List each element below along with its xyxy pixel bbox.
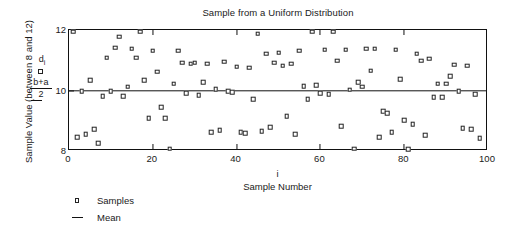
data-point bbox=[280, 63, 285, 68]
legend-label-samples: Samples bbox=[97, 195, 134, 206]
data-point bbox=[247, 66, 252, 71]
x-axis-variable: i bbox=[68, 168, 487, 179]
annotation-mean-formula: b+a 2 bbox=[28, 78, 54, 99]
plot-area bbox=[68, 29, 487, 150]
data-point bbox=[373, 46, 378, 51]
data-point bbox=[289, 62, 294, 67]
data-point bbox=[452, 62, 457, 67]
data-point bbox=[444, 82, 449, 87]
data-point bbox=[389, 130, 394, 135]
data-point bbox=[151, 48, 156, 53]
annotation-di: di bbox=[31, 54, 53, 66]
data-point bbox=[398, 77, 403, 82]
x-tick-top bbox=[152, 30, 153, 35]
data-point bbox=[410, 122, 415, 127]
data-point bbox=[368, 69, 373, 74]
data-point bbox=[176, 48, 181, 53]
data-point bbox=[117, 34, 122, 39]
data-point bbox=[100, 94, 105, 99]
data-point bbox=[285, 114, 290, 119]
x-tick-label: 60 bbox=[314, 153, 325, 164]
annotation-mean-denominator: 2 bbox=[28, 90, 54, 100]
data-point bbox=[301, 84, 306, 89]
legend-item-samples: Samples bbox=[66, 192, 134, 209]
data-point bbox=[121, 94, 126, 99]
data-point bbox=[326, 92, 331, 97]
data-point bbox=[431, 95, 436, 100]
data-point bbox=[134, 56, 139, 61]
data-point bbox=[92, 127, 97, 132]
data-point bbox=[125, 85, 130, 90]
data-point bbox=[201, 80, 206, 85]
data-point bbox=[197, 93, 202, 98]
data-point bbox=[243, 131, 248, 136]
data-point bbox=[293, 132, 298, 137]
legend-label-mean: Mean bbox=[97, 212, 121, 223]
x-tick bbox=[236, 144, 237, 149]
data-point bbox=[360, 85, 365, 90]
data-point bbox=[184, 91, 189, 96]
data-point bbox=[473, 92, 478, 97]
annotation-mean-numerator: b+a bbox=[28, 78, 54, 88]
data-point bbox=[419, 59, 424, 64]
data-point bbox=[435, 82, 440, 87]
data-point bbox=[155, 69, 160, 74]
data-point bbox=[213, 87, 218, 92]
data-point bbox=[138, 29, 143, 34]
data-point bbox=[322, 47, 327, 52]
y-tick bbox=[69, 90, 74, 91]
square-marker-icon bbox=[66, 198, 88, 203]
data-point bbox=[377, 135, 382, 140]
x-tick-top bbox=[320, 30, 321, 35]
data-point bbox=[192, 60, 197, 65]
data-point bbox=[130, 46, 135, 51]
data-point bbox=[427, 56, 432, 61]
data-point bbox=[268, 125, 273, 130]
x-tick bbox=[320, 144, 321, 149]
x-tick-label: 80 bbox=[398, 153, 409, 164]
data-point bbox=[113, 45, 118, 50]
data-point bbox=[163, 116, 168, 121]
data-point bbox=[414, 51, 419, 56]
data-point bbox=[209, 130, 214, 135]
x-tick bbox=[152, 144, 153, 149]
mean-line bbox=[69, 90, 486, 91]
data-point bbox=[456, 89, 461, 94]
data-point bbox=[318, 91, 323, 96]
data-point bbox=[402, 118, 407, 123]
data-point bbox=[171, 82, 176, 87]
data-point bbox=[251, 97, 256, 102]
data-point bbox=[146, 116, 151, 121]
data-point bbox=[331, 29, 336, 34]
x-axis-title: Sample Number bbox=[68, 181, 487, 192]
x-tick-top bbox=[404, 30, 405, 35]
data-point bbox=[71, 29, 76, 34]
data-point bbox=[234, 65, 239, 70]
data-point bbox=[394, 47, 399, 52]
data-point bbox=[477, 136, 482, 141]
y-tick-label: 12 bbox=[52, 24, 66, 35]
data-point bbox=[255, 31, 260, 36]
data-point bbox=[218, 128, 223, 133]
data-point bbox=[180, 60, 185, 65]
data-point bbox=[264, 51, 269, 56]
data-point bbox=[465, 63, 470, 68]
data-point bbox=[142, 78, 147, 83]
x-tick-top bbox=[236, 30, 237, 35]
data-point bbox=[306, 97, 311, 102]
x-tick bbox=[404, 144, 405, 149]
data-point bbox=[109, 89, 114, 94]
annotation-di-subscript: i bbox=[44, 59, 46, 66]
data-point bbox=[159, 105, 164, 110]
x-tick-label: 100 bbox=[479, 153, 495, 164]
x-tick-label: 0 bbox=[65, 153, 70, 164]
data-point bbox=[75, 135, 80, 140]
chart-figure: Sample from a Uniform Distribution Sampl… bbox=[0, 0, 509, 237]
line-marker-icon bbox=[66, 217, 88, 218]
chart-legend: Samples Mean bbox=[66, 192, 134, 226]
data-point bbox=[347, 88, 352, 93]
data-point bbox=[276, 50, 281, 55]
data-point bbox=[167, 146, 172, 151]
legend-item-mean: Mean bbox=[66, 209, 134, 226]
data-point bbox=[297, 48, 302, 53]
